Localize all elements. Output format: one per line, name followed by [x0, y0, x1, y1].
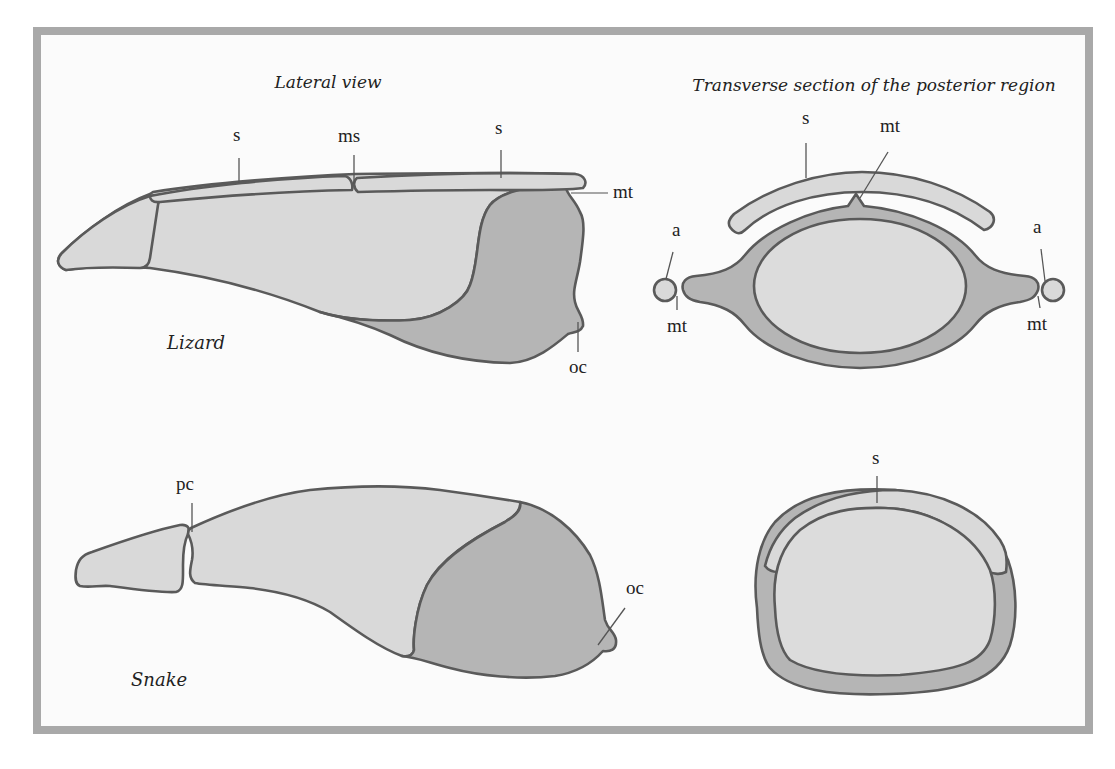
lizard-transverse-a-left [654, 279, 676, 301]
transverse-label-mt-left: mt [667, 315, 688, 336]
transverse-label-a-right: a [1033, 216, 1042, 237]
transverse-label-mt-top: mt [880, 115, 901, 136]
lizard-label-s-right: s [495, 117, 502, 138]
snake-label-oc: oc [626, 577, 644, 598]
lizard-species-label: Lizard [166, 332, 225, 353]
transverse-label-s: s [802, 107, 809, 128]
snake-transverse-label-s: s [872, 447, 879, 468]
snake-label-pc: pc [176, 473, 194, 494]
lizard-label-oc: oc [569, 356, 587, 377]
transverse-section-title: Transverse section of the posterior regi… [692, 75, 1055, 95]
snake-transverse-cavity [774, 508, 994, 676]
transverse-label-mt-right: mt [1027, 313, 1048, 334]
lizard-label-mt: mt [613, 181, 634, 202]
skull-comparison-diagram: Lateral view Transverse section of the p… [0, 0, 1115, 769]
snake-species-label: Snake [131, 669, 187, 690]
lizard-label-s-left: s [233, 124, 240, 145]
lizard-skull-roof-posterior [354, 173, 585, 192]
lizard-label-ms: ms [338, 125, 360, 146]
snake-transverse-section [756, 489, 1016, 694]
transverse-label-a-left: a [672, 219, 681, 240]
lizard-transverse-a-right [1042, 279, 1064, 301]
lizard-transverse-cavity [754, 219, 966, 353]
lateral-view-title: Lateral view [273, 72, 382, 92]
